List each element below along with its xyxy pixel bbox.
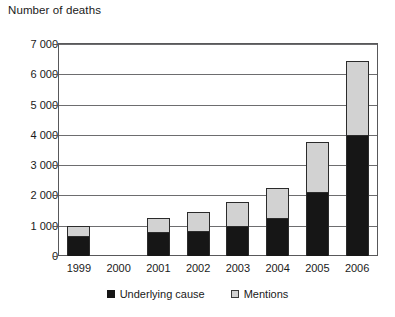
y-axis-tick-label: 5 000: [6, 100, 58, 111]
bar-segment-mentions[interactable]: [147, 218, 170, 232]
y-axis-tick-label: 1 000: [6, 221, 58, 232]
stacked-bar[interactable]: [147, 218, 170, 256]
bar-segment-underlying-cause[interactable]: [147, 232, 170, 256]
bars-layer: [59, 44, 377, 256]
stacked-bar[interactable]: [187, 212, 210, 256]
stacked-bar[interactable]: [226, 202, 249, 257]
bar-segment-mentions[interactable]: [306, 142, 329, 192]
bar-group-1999[interactable]: [59, 44, 99, 256]
x-axis-tick-label-1999: 1999: [59, 262, 99, 274]
bar-group-2000[interactable]: [99, 44, 139, 256]
bar-segment-mentions[interactable]: [187, 212, 210, 231]
y-axis-tick-label: 4 000: [6, 130, 58, 141]
bar-group-2001[interactable]: [139, 44, 179, 256]
black-square-icon: [107, 290, 115, 298]
legend-item-underlying-cause: Underlying cause: [107, 288, 205, 300]
legend-label-mentions: Mentions: [244, 288, 289, 300]
y-axis-tick-label: 0: [6, 251, 58, 262]
y-axis-tick-mark: [53, 256, 58, 257]
bar-group-2006[interactable]: [337, 44, 377, 256]
y-axis-tick-label: 6 000: [6, 69, 58, 80]
bar-segment-underlying-cause[interactable]: [346, 135, 369, 256]
bar-segment-mentions[interactable]: [67, 226, 90, 237]
bar-segment-mentions[interactable]: [266, 188, 289, 218]
stacked-bar[interactable]: [346, 61, 369, 256]
x-axis: 19992000200120022003200420052006: [59, 262, 377, 278]
stacked-bar[interactable]: [306, 142, 329, 256]
legend-label-underlying-cause: Underlying cause: [120, 288, 205, 300]
bar-segment-underlying-cause[interactable]: [187, 231, 210, 256]
bar-segment-underlying-cause[interactable]: [306, 192, 329, 256]
x-axis-tick-label-2003: 2003: [218, 262, 258, 274]
gray-square-icon: [231, 290, 239, 298]
y-axis-tick-label: 3 000: [6, 160, 58, 171]
bar-segment-underlying-cause[interactable]: [226, 226, 249, 256]
bar-segment-underlying-cause[interactable]: [67, 236, 90, 256]
y-axis: 01 0002 0003 0004 0005 0006 0007 000: [0, 43, 58, 257]
x-axis-tick-label-2002: 2002: [178, 262, 218, 274]
chart-legend: Underlying cause Mentions: [0, 288, 395, 300]
chart-container: Number of deaths 01 0002 0003 0004 0005 …: [0, 0, 395, 317]
stacked-bar[interactable]: [67, 226, 90, 256]
x-axis-tick-label-2005: 2005: [298, 262, 338, 274]
x-axis-tick-label-2000: 2000: [99, 262, 139, 274]
stacked-bar[interactable]: [266, 188, 289, 256]
bar-segment-mentions[interactable]: [226, 202, 249, 227]
chart-title: Number of deaths: [8, 4, 101, 16]
bar-group-2003[interactable]: [218, 44, 258, 256]
y-axis-tick-label: 2 000: [6, 190, 58, 201]
bar-group-2004[interactable]: [258, 44, 298, 256]
y-axis-tick-label: 7 000: [6, 39, 58, 50]
bar-group-2002[interactable]: [178, 44, 218, 256]
bar-segment-underlying-cause[interactable]: [266, 218, 289, 256]
bar-segment-mentions[interactable]: [346, 61, 369, 135]
x-axis-tick-label-2006: 2006: [337, 262, 377, 274]
x-axis-tick-label-2004: 2004: [258, 262, 298, 274]
legend-item-mentions: Mentions: [231, 288, 289, 300]
bar-group-2005[interactable]: [298, 44, 338, 256]
x-axis-tick-label-2001: 2001: [139, 262, 179, 274]
